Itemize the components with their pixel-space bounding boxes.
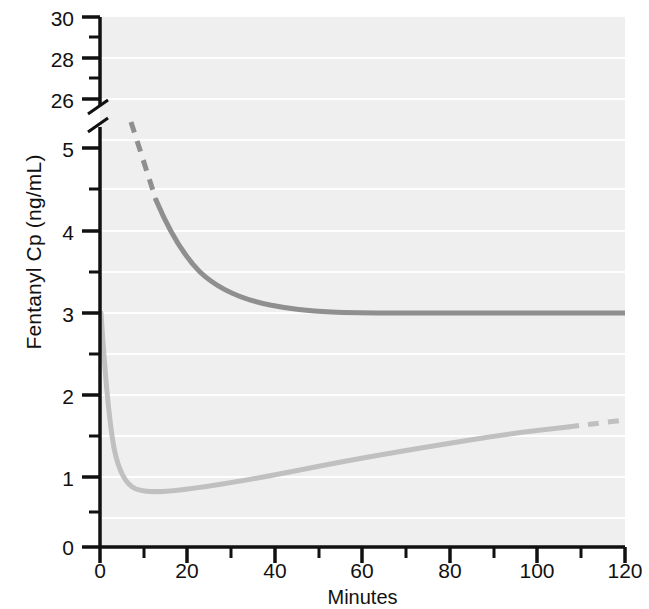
y-major-ticks <box>82 17 100 547</box>
plot-background <box>100 17 625 547</box>
chart-figure: Fentanyl Cp (ng/mL) Minutes 30 28 26 5 4… <box>0 0 649 609</box>
plot-area <box>0 0 649 609</box>
x-major-ticks <box>100 547 625 563</box>
